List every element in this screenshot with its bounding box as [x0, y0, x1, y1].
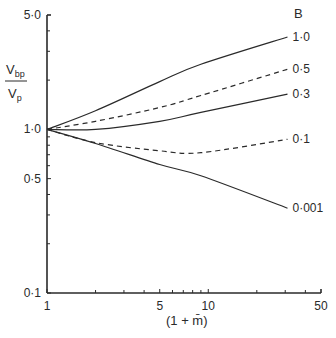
series-label: 1·0 — [293, 30, 311, 44]
x-tick-label: 5 — [156, 299, 163, 313]
y-axis-label-denominator: Vp — [8, 86, 22, 103]
y-tick-label: 0·5 — [24, 172, 42, 186]
curves — [47, 37, 288, 208]
y-tick-label: 1·0 — [24, 122, 42, 136]
labels: 5·01·00·50·11510501·00·50·30·10·001 — [24, 8, 328, 313]
series-curve-B-0·3 — [47, 94, 288, 130]
chart: 5·01·00·50·11510501·00·50·30·10·001 B (1… — [0, 0, 336, 338]
y-tick-label: 5·0 — [24, 8, 42, 22]
x-tick-label: 50 — [314, 299, 328, 313]
x-axis-label: (1 + m̄) — [166, 313, 208, 328]
series-label: 0·5 — [293, 62, 311, 76]
y-axis-label: Vbp Vp — [5, 62, 27, 103]
series-label: 0·001 — [293, 201, 324, 215]
series-label: 0·3 — [293, 87, 311, 101]
series-label: 0·1 — [293, 132, 311, 146]
x-tick-label: 10 — [202, 299, 216, 313]
x-tick-label: 1 — [44, 299, 51, 313]
series-curve-B-1·0 — [47, 37, 288, 129]
series-curve-B-0·001 — [47, 129, 288, 208]
y-axis-label-numerator: Vbp — [6, 62, 25, 79]
y-tick-label: 0·1 — [24, 286, 42, 300]
series-curve-B-0·1 — [47, 129, 288, 153]
legend-title: B — [294, 6, 303, 21]
